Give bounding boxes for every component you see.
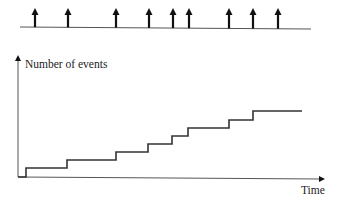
x-axis-label: Time bbox=[301, 184, 325, 196]
event-arrow-icon bbox=[113, 8, 120, 28]
y-axis-label: Number of events bbox=[25, 58, 107, 70]
event-arrow-icon bbox=[226, 8, 233, 28]
counting-process-plot bbox=[15, 55, 325, 182]
event-arrow-icon bbox=[146, 8, 153, 28]
event-arrow-icon bbox=[32, 8, 39, 27]
event-arrow-icon bbox=[186, 8, 193, 28]
y-axis-arrow-icon bbox=[15, 55, 21, 61]
x-axis bbox=[18, 177, 321, 179]
x-axis-arrow-icon bbox=[319, 176, 325, 182]
step-function-line bbox=[18, 111, 302, 177]
diagram-canvas bbox=[0, 0, 345, 205]
event-timeline bbox=[20, 8, 311, 29]
event-arrow-icon bbox=[250, 8, 257, 29]
event-arrow-icon bbox=[65, 8, 72, 27]
event-arrow-icon bbox=[275, 8, 282, 29]
timeline-axis bbox=[20, 27, 311, 29]
event-arrow-icon bbox=[170, 8, 177, 28]
